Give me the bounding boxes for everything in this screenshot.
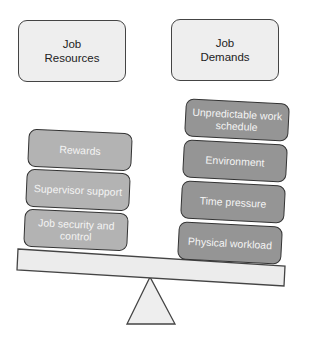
demand-time-pressure: Time pressure <box>180 180 286 223</box>
resource-job-security: Job security and control <box>23 209 129 252</box>
resource-rewards: Rewards <box>27 129 133 172</box>
demand-physical-workload: Physical workload <box>177 221 283 264</box>
resource-supervisor-support: Supervisor support <box>25 169 131 212</box>
demand-unpredictable-schedule: Unpredictable work schedule <box>184 98 290 141</box>
demand-environment: Environment <box>182 139 288 182</box>
fulcrum-triangle <box>127 277 175 324</box>
